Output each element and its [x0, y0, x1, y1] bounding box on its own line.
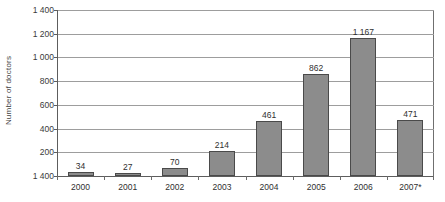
plot-right-border	[433, 10, 434, 176]
bar-chart: Number of doctors 1 4001 2001 0008006004…	[0, 0, 445, 202]
x-axis-tick-label: 2001	[118, 182, 137, 192]
x-axis-tick-label: 2003	[212, 182, 231, 192]
y-axis-tick-mark	[54, 105, 58, 106]
x-axis-tick-mark	[151, 176, 152, 180]
bar	[303, 74, 329, 176]
x-axis-tick-mark	[246, 176, 247, 180]
x-axis-tick-label: 2000	[71, 182, 90, 192]
bar	[350, 38, 376, 176]
y-axis-tick-label: 800	[14, 76, 54, 86]
bar-value-label: 70	[170, 157, 179, 167]
bar-value-label: 862	[309, 63, 323, 73]
bar	[162, 168, 188, 176]
y-axis-tick-mark	[54, 129, 58, 130]
y-axis-line	[57, 10, 58, 176]
bar-value-label: 214	[215, 140, 229, 150]
x-axis-tick-mark	[387, 176, 388, 180]
bar-value-label: 27	[123, 162, 132, 172]
y-axis-tick-mark	[54, 57, 58, 58]
y-axis-tick-mark	[54, 10, 58, 11]
bar-value-label: 1 167	[353, 27, 374, 37]
y-axis-tick-mark	[54, 81, 58, 82]
y-axis-tick-label: 1 200	[14, 29, 54, 39]
gridline	[57, 152, 434, 153]
bar-value-label: 471	[403, 109, 417, 119]
y-axis-tick-labels: 1 4001 2001 0008006004002001 400	[14, 10, 54, 176]
gridline	[57, 129, 434, 130]
gridline	[57, 10, 434, 11]
bar	[397, 120, 423, 176]
plot-area: 3427702144618621 167471	[57, 10, 434, 176]
x-axis-tick-label: 2006	[354, 182, 373, 192]
x-axis-tick-label: 2005	[307, 182, 326, 192]
y-axis-title-label: Number of doctors	[5, 55, 14, 124]
x-axis-tick-label: 2004	[260, 182, 279, 192]
x-axis-tick-mark	[340, 176, 341, 180]
gridline	[57, 105, 434, 106]
bar	[209, 151, 235, 176]
y-axis-tick-label: 600	[14, 100, 54, 110]
x-axis-tick-mark	[293, 176, 294, 180]
x-axis: 20002001200220032004200520062007*	[57, 176, 434, 202]
y-axis-tick-mark	[54, 34, 58, 35]
bar	[256, 121, 282, 176]
x-axis-tick-mark	[198, 176, 199, 180]
x-axis-tick-label: 2007*	[399, 182, 421, 192]
y-axis-tick-label: 1 400	[14, 5, 54, 15]
gridline	[57, 81, 434, 82]
gridline	[57, 57, 434, 58]
y-axis-tick-mark	[54, 152, 58, 153]
x-axis-tick-mark	[57, 176, 58, 180]
x-axis-tick-label: 2002	[165, 182, 184, 192]
y-axis-tick-label: 1 000	[14, 52, 54, 62]
bar-value-label: 34	[76, 161, 85, 171]
y-axis-tick-label: 200	[14, 147, 54, 157]
x-axis-tick-mark	[104, 176, 105, 180]
y-axis-tick-label: 400	[14, 124, 54, 134]
x-axis-tick-mark	[433, 176, 434, 180]
bar-value-label: 461	[262, 110, 276, 120]
y-axis-tick-label: 1 400	[14, 171, 54, 181]
gridline	[57, 34, 434, 35]
